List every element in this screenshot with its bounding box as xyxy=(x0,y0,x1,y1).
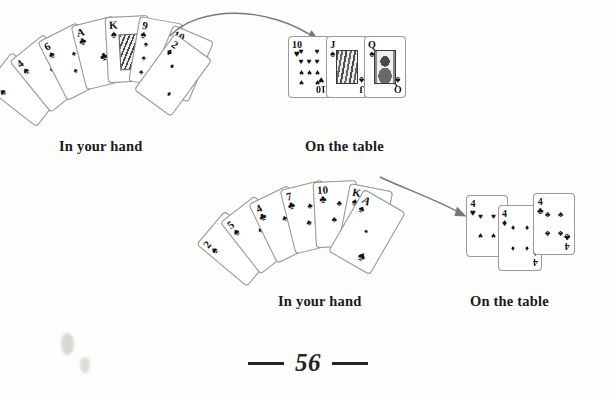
suit-icon: ♠ xyxy=(111,29,117,40)
table-card[interactable]: Q ♠ Q ♠ xyxy=(364,36,406,98)
suit-icon: ♥ xyxy=(307,58,312,66)
pip-layout: ♦ ♦ ♦ ♦ xyxy=(506,218,534,258)
suit-icon: ♣ xyxy=(558,211,563,219)
card-index: 10 ♣ xyxy=(317,184,329,204)
suit-icon: ♠ xyxy=(72,66,79,75)
suit-icon: ♠ xyxy=(0,87,9,98)
pip-layout: ♥ ♥ ♥ ♥ xyxy=(474,208,500,244)
suit-icon: ♣ xyxy=(78,36,88,48)
folio-rule-left xyxy=(248,362,284,365)
suit-icon: ♠ xyxy=(330,49,335,59)
card-index: 2 ♠ xyxy=(0,81,9,98)
suit-icon: ♥ xyxy=(491,231,496,239)
suit-icon: ♣ xyxy=(331,216,337,224)
suit-icon: ♦ xyxy=(511,244,515,252)
table-card[interactable]: J ♠ J ♠ xyxy=(326,36,368,98)
suit-icon: ♣ xyxy=(319,194,327,205)
card-index: 9 ♠ xyxy=(140,20,149,41)
suit-icon: ♠ xyxy=(355,249,368,265)
suit-icon: ♦ xyxy=(511,224,515,232)
suit-icon: ♥ xyxy=(299,68,304,76)
suit-icon: ♠ xyxy=(208,245,220,256)
suit-icon: ♣ xyxy=(545,229,550,237)
card-index: 6 ♠ xyxy=(42,40,56,60)
suit-icon: ♥ xyxy=(491,213,496,221)
suit-icon: ♣ xyxy=(306,219,313,228)
card-index: A ♠ xyxy=(356,194,373,215)
suit-icon: ♠ xyxy=(395,76,400,86)
table-card[interactable]: 10 ♥ 10 ♥ ♥ ♥ ♥ ♥ ♥ ♥ ♥ ♥ ♥ xyxy=(288,36,330,98)
card-index: 7 ♣ xyxy=(284,190,296,211)
card-index: K ♠ xyxy=(109,20,119,40)
suit-icon: ♣ xyxy=(307,202,314,211)
page-folio: 56 xyxy=(0,349,616,377)
caption-on-the-table: On the table xyxy=(470,293,549,310)
suit-icon: ♦ xyxy=(525,224,529,232)
suit-icon: ♠ xyxy=(143,40,149,49)
suit-icon: ♥ xyxy=(315,68,320,76)
suit-icon: ♠ xyxy=(141,54,147,63)
suit-icon: ♠ xyxy=(357,203,367,215)
suit-icon: ♠ xyxy=(231,226,242,238)
caption-on-the-table: On the table xyxy=(305,138,384,155)
suit-icon: ♠ xyxy=(362,228,369,236)
suit-icon: ♣ xyxy=(558,229,563,237)
suit-icon: ♦ xyxy=(168,62,176,71)
table-card[interactable]: 4 ♣ 4 ♣ ♣ ♣ ♣ ♣ xyxy=(533,193,575,255)
suit-icon: ♣ xyxy=(337,200,343,208)
suit-icon: ♥ xyxy=(315,58,320,66)
suit-icon: ♣ xyxy=(545,211,550,219)
suit-icon: ♦ xyxy=(165,90,173,99)
suit-icon: ♥ xyxy=(307,68,312,76)
suit-icon: ♦ xyxy=(164,46,175,58)
suit-icon: ♥ xyxy=(315,78,320,86)
card-index: J ♠ xyxy=(330,40,335,58)
suit-icon: ♠ xyxy=(47,49,57,61)
suit-icon: ♦ xyxy=(525,244,529,252)
suit-icon: ♣ xyxy=(287,200,297,212)
suit-icon: ♣ xyxy=(257,211,268,224)
suit-icon: ♥ xyxy=(478,213,483,221)
card-index: A ♣ xyxy=(75,26,88,47)
queen-figure-icon xyxy=(374,50,396,84)
folio-rule-right xyxy=(332,362,368,365)
caption-in-your-hand: In your hand xyxy=(278,293,362,310)
card-index: 4 ♣ xyxy=(253,202,268,223)
jack-figure-icon xyxy=(336,50,358,84)
pip-layout: ♣ ♣ ♣ ♣ xyxy=(541,206,567,242)
suit-icon: ♥ xyxy=(299,58,304,66)
card-index: 2 ♠ xyxy=(201,239,220,256)
suit-icon: ♥ xyxy=(315,48,320,56)
suit-icon: ♠ xyxy=(20,65,31,77)
suit-icon: ♥ xyxy=(299,48,304,56)
pip-layout: ♥ ♥ ♥ ♥ ♥ ♥ ♥ ♥ ♥ ♥ xyxy=(297,47,321,87)
suit-icon: ♥ xyxy=(299,78,304,86)
book-page: 2 ♠ 4 ♠ ♠ 6 ♠ ♠ ♠ xyxy=(0,0,616,399)
caption-in-your-hand: In your hand xyxy=(59,138,143,155)
suit-icon: ♥ xyxy=(478,231,483,239)
page-number: 56 xyxy=(295,349,321,377)
